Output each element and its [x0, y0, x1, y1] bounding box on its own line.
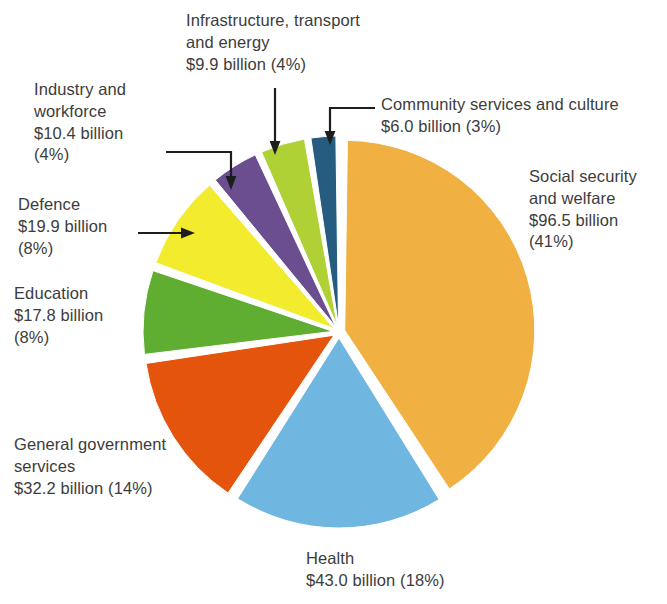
- label-community-services-and-culture: Community services and culture $6.0 bill…: [381, 94, 667, 138]
- leader-line-community: [330, 108, 375, 132]
- label-industry-and-workforce: Industry and workforce $10.4 billion (4%…: [34, 79, 194, 166]
- label-defence: Defence $19.9 billion (8%): [18, 194, 188, 259]
- label-education: Education $17.8 billion (8%): [14, 283, 174, 348]
- label-social-security-and-welfare: Social security and welfare $96.5 billio…: [529, 166, 667, 253]
- label-general-government-services: General government services $32.2 billio…: [14, 434, 234, 499]
- label-health: Health $43.0 billion (18%): [306, 548, 536, 592]
- pie-chart-figure: Infrastructure, transport and energy $9.…: [0, 0, 667, 604]
- label-infrastructure-transport-energy: Infrastructure, transport and energy $9.…: [186, 10, 416, 75]
